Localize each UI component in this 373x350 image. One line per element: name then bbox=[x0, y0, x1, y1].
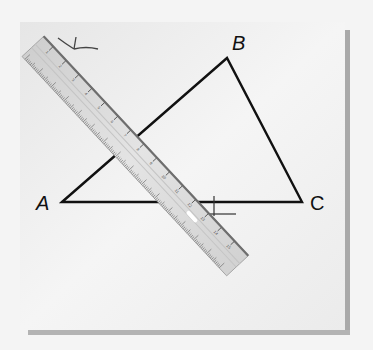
vertex-label-a: A bbox=[35, 192, 49, 214]
vertex-label-c: C bbox=[310, 192, 324, 214]
diagram-canvas: 123456789101112131415 A B C bbox=[0, 0, 373, 350]
paper-shadow-bottom bbox=[28, 330, 350, 335]
paper-shadow-right bbox=[345, 30, 350, 335]
vertex-label-b: B bbox=[232, 32, 245, 54]
